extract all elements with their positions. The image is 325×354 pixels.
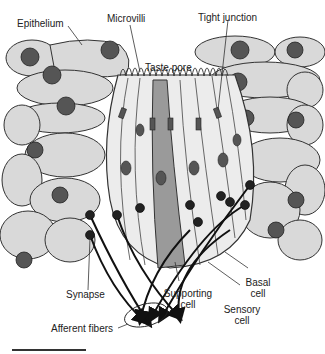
label-supporting-cell: Supporting cell: [160, 288, 216, 310]
label-afferent-fibers: Afferent fibers: [51, 323, 113, 334]
label-taste-pore: Taste pore: [145, 62, 192, 73]
label-sensory-cell: Sensory cell: [220, 304, 264, 326]
label-microvilli: Microvilli: [107, 13, 145, 24]
label-epithelium: Epithelium: [17, 18, 64, 29]
label-basal-cell: Basal cell: [240, 277, 276, 299]
taste-bud-diagram: Epithelium Microvilli Tight junction Tas…: [0, 0, 325, 354]
label-synapse: Synapse: [66, 289, 105, 300]
label-tight-junction: Tight junction: [198, 12, 257, 23]
scale-bar: [12, 349, 86, 351]
